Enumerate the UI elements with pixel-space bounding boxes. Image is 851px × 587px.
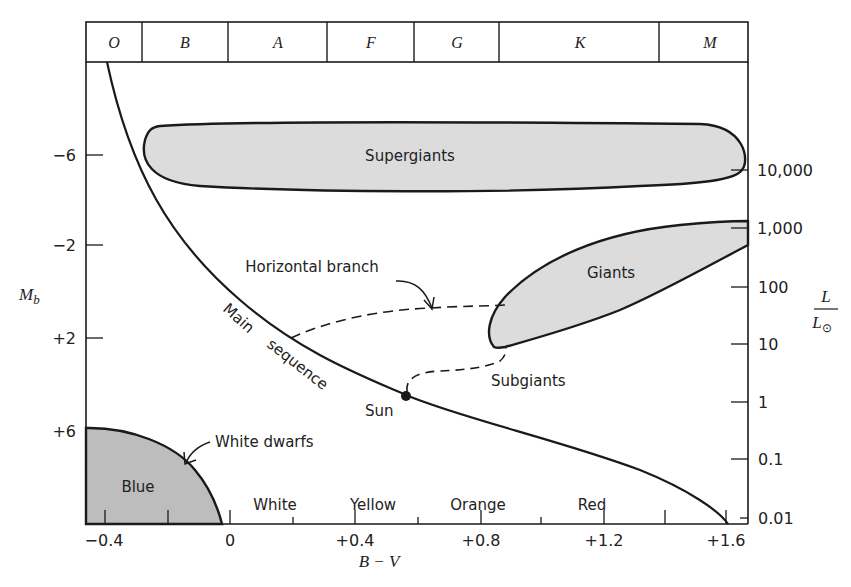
y-right-tick-label: 100 bbox=[758, 278, 789, 297]
main-sequence-label-sequence: sequence bbox=[264, 335, 332, 394]
y-left-axis-title: Mb bbox=[18, 285, 40, 307]
y-right-tick-label: 1,000 bbox=[757, 219, 803, 238]
horizontal-branch-arrowhead-icon bbox=[424, 297, 434, 309]
y-left-tick-label: −6 bbox=[52, 146, 76, 165]
spectral-class-header: O B A F G K M bbox=[86, 22, 748, 62]
y-right-tick-label: 0.1 bbox=[758, 450, 783, 469]
sun-point bbox=[401, 391, 411, 401]
horizontal-branch-curve bbox=[291, 305, 505, 338]
white-label: White bbox=[253, 496, 297, 514]
hr-diagram: O B A F G K M −0 bbox=[0, 0, 851, 587]
white-dwarfs-label: White dwarfs bbox=[215, 433, 314, 451]
y-right-tick-label: 1 bbox=[758, 393, 768, 412]
x-tick-label: +0.8 bbox=[462, 531, 501, 550]
y-left-tick-label: −2 bbox=[52, 236, 76, 255]
y-right-tick-label: 10 bbox=[758, 335, 778, 354]
y-right-tick-label: 0.01 bbox=[758, 509, 794, 528]
svg-text:L⊙: L⊙ bbox=[811, 313, 831, 335]
y-right-axis-title: L L⊙ bbox=[811, 287, 838, 335]
y-left-tick-label: +6 bbox=[52, 422, 76, 441]
spectral-class-g: G bbox=[451, 34, 463, 51]
y-right-tick-label: 10,000 bbox=[757, 161, 813, 180]
spectral-class-b: B bbox=[180, 34, 190, 51]
spectral-class-m: M bbox=[702, 34, 718, 51]
x-tick-label: −0.4 bbox=[85, 531, 124, 550]
spectral-class-f: F bbox=[365, 34, 376, 51]
spectral-class-k: K bbox=[574, 34, 587, 51]
y-left-ticks bbox=[86, 155, 103, 338]
subgiants-label: Subgiants bbox=[491, 372, 566, 390]
sun-label: Sun bbox=[365, 402, 394, 420]
x-tick-label: 0 bbox=[225, 531, 235, 550]
white-dwarfs-arrow-icon bbox=[186, 442, 210, 463]
spectral-class-o: O bbox=[108, 34, 120, 51]
x-tick-label: +0.4 bbox=[336, 531, 375, 550]
supergiants-label: Supergiants bbox=[365, 147, 455, 165]
red-label: Red bbox=[578, 496, 607, 514]
blue-label: Blue bbox=[121, 478, 154, 496]
horizontal-branch-label: Horizontal branch bbox=[245, 258, 379, 276]
x-tick-label: +1.6 bbox=[707, 531, 746, 550]
white-dwarf-region bbox=[86, 428, 222, 524]
giants-label: Giants bbox=[587, 264, 635, 282]
svg-text:L: L bbox=[820, 287, 830, 306]
orange-label: Orange bbox=[450, 496, 505, 514]
spectral-class-a: A bbox=[272, 34, 283, 51]
main-sequence-label-main: Main bbox=[219, 300, 258, 337]
giants-region bbox=[489, 221, 748, 348]
y-left-tick-label: +2 bbox=[52, 329, 76, 348]
x-axis-title: B − V bbox=[359, 552, 402, 571]
yellow-label: Yellow bbox=[349, 496, 396, 514]
x-tick-label: +1.2 bbox=[585, 531, 624, 550]
